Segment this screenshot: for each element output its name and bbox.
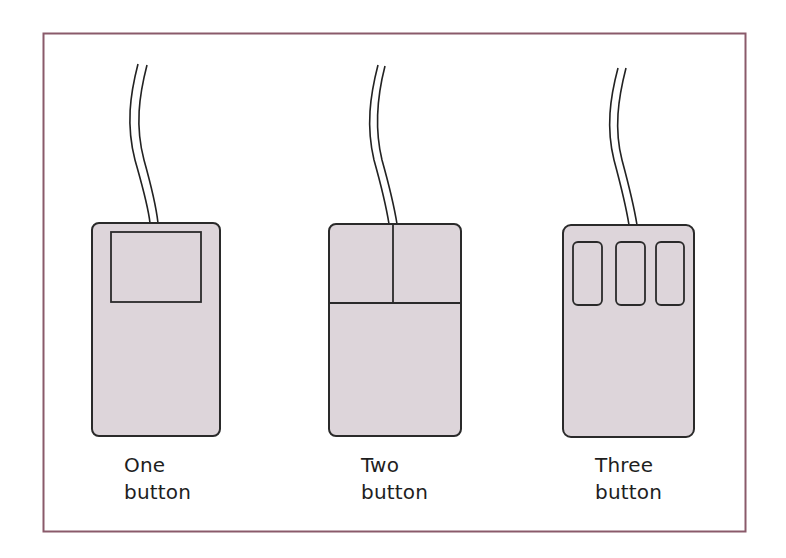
mouse-two-button [329,65,461,436]
mouse-label-three: Three button [595,452,662,506]
label-line: button [124,479,191,506]
label-line: Three [595,452,662,479]
mouse-label-one: One button [124,452,191,506]
mouse-label-two: Two button [361,452,428,506]
mouse-three-button [563,68,694,437]
mouse-one-button [92,64,220,436]
figure: One button Two button Three button [0,0,786,558]
mouse-cable [618,68,637,225]
mouse-cable [377,66,397,224]
label-line: Two [361,452,428,479]
label-line: One [124,452,191,479]
label-line: button [361,479,428,506]
label-line: button [595,479,662,506]
mouse-body [329,224,461,436]
mouse-body [563,225,694,437]
mouse-cable [139,65,158,223]
